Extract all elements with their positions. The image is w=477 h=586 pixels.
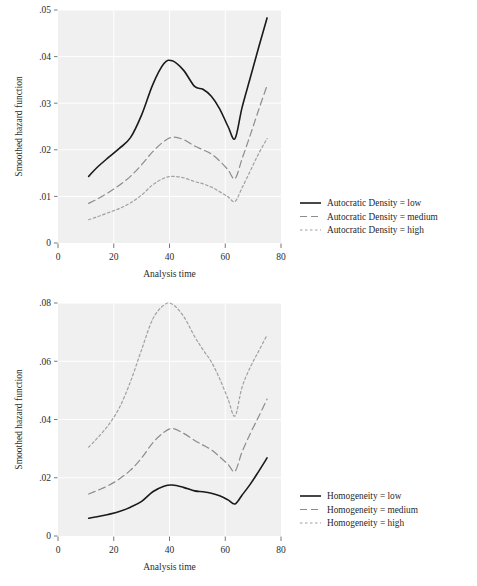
legend-label: Homogeneity = medium: [327, 505, 419, 515]
x-tick-label: 40: [165, 545, 175, 555]
legend-label: Autocratic Density = low: [327, 198, 422, 208]
x-tick-label: 80: [276, 252, 286, 262]
y-tick-label: .05: [39, 5, 51, 15]
x-tick-label: 20: [109, 545, 119, 555]
x-tick-label: 60: [221, 252, 231, 262]
y-tick-label: .02: [39, 145, 51, 155]
legend-label: Autocratic Density = high: [327, 225, 424, 235]
legend-label: Homogeneity = low: [327, 491, 402, 501]
y-tick-label: .03: [39, 99, 51, 109]
figure-homogeneity: 0.02.04.06.08020406080Analysis timeSmoot…: [0, 293, 477, 586]
x-tick-label: 40: [165, 252, 175, 262]
y-tick-label: 0: [46, 531, 51, 541]
x-tick-label: 20: [109, 252, 119, 262]
chart-homogeneity: 0.02.04.06.08020406080Analysis timeSmoot…: [0, 293, 477, 586]
legend-label: Autocratic Density = medium: [327, 212, 439, 222]
y-tick-label: 0: [46, 238, 51, 248]
chart-autocratic-density: 0.01.02.03.04.05020406080Analysis timeSm…: [0, 0, 477, 293]
x-tick-label: 60: [221, 545, 231, 555]
x-axis-title: Analysis time: [143, 269, 196, 279]
y-tick-label: .04: [39, 415, 51, 425]
y-axis-title: Smoothed hazard function: [14, 76, 24, 177]
y-tick-label: .06: [39, 357, 51, 367]
y-axis-title: Smoothed hazard function: [14, 369, 24, 470]
x-axis-title: Analysis time: [143, 562, 196, 572]
y-tick-label: .08: [39, 298, 51, 308]
y-tick-label: .04: [39, 52, 51, 62]
x-tick-label: 80: [276, 545, 286, 555]
legend-label: Homogeneity = high: [327, 518, 404, 528]
y-tick-label: .01: [39, 192, 51, 202]
y-tick-label: .02: [39, 473, 51, 483]
figure-autocratic-density: 0.01.02.03.04.05020406080Analysis timeSm…: [0, 0, 477, 293]
x-tick-label: 0: [56, 252, 61, 262]
x-tick-label: 0: [56, 545, 61, 555]
